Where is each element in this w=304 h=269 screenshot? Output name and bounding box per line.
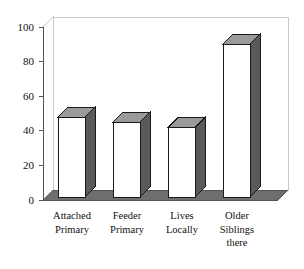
bar-column-4 (223, 34, 260, 197)
bar-2-face (113, 122, 140, 197)
x-label-line: there (201, 236, 273, 250)
y-axis-ticks (39, 27, 43, 200)
bar-1-side (85, 107, 95, 197)
x-label-line: Older (201, 209, 273, 223)
y-tick-label-0: 0 (4, 195, 34, 206)
plot-left-wall (43, 17, 53, 200)
y-tick-label-60: 60 (4, 91, 34, 102)
y-tick-label-20: 20 (4, 160, 34, 171)
bar-1-face (58, 117, 85, 197)
bar-column-3 (168, 117, 205, 197)
bar-column-2 (113, 112, 150, 197)
bar-4-side (250, 34, 260, 197)
bar-4-face (223, 44, 250, 197)
x-label-line: Siblings (201, 223, 273, 237)
bar-chart: 100 80 60 40 20 0 Attached Primary Feede… (0, 0, 304, 269)
bar-3-face (168, 127, 195, 197)
bar-3-side (195, 117, 205, 197)
x-label-older-siblings-there: Older Siblings there (201, 209, 273, 250)
y-tick-label-100: 100 (4, 22, 34, 33)
y-tick-label-80: 80 (4, 56, 34, 67)
bar-2-side (140, 112, 150, 197)
bar-column-1 (58, 107, 95, 197)
y-tick-label-40: 40 (4, 125, 34, 136)
